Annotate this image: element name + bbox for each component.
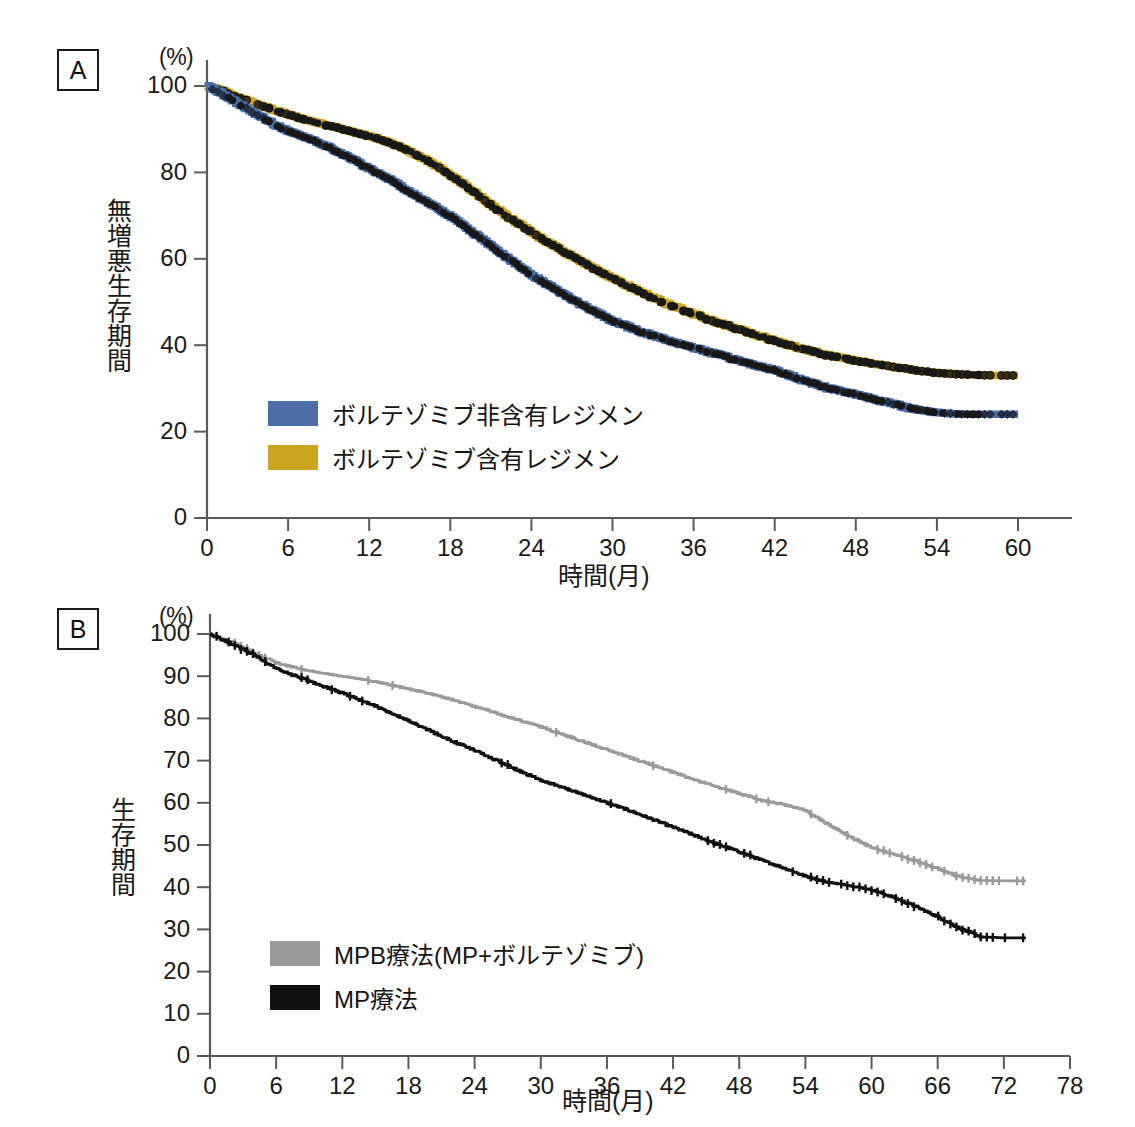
panel-a-x-tick: 12	[356, 534, 383, 561]
panel-b-y-tick: 0	[177, 1041, 190, 1068]
panel-a-plot: 02040608010006121824303642485460	[0, 0, 1135, 600]
legend-label-mp-therapy: MP療法	[334, 980, 418, 1015]
panel-b-x-tick: 6	[269, 1072, 282, 1099]
panel-b-x-tick: 60	[858, 1072, 885, 1099]
panel-a-y-tick: 0	[174, 503, 187, 530]
panel-a-y-tick: 80	[160, 158, 187, 185]
panel-b-x-tick: 66	[924, 1072, 951, 1099]
panel-a-y-tick: 100	[147, 71, 187, 98]
panel-b-y-tick: 30	[163, 915, 190, 942]
panel-a-x-tick: 24	[518, 534, 545, 561]
legend-label-bortezomib-free: ボルテゾミブ非含有レジメン	[332, 396, 644, 431]
panel-b-y-tick: 90	[163, 662, 190, 689]
panel-a-x-tick: 18	[437, 534, 464, 561]
panel-b-x-tick: 48	[726, 1072, 753, 1099]
panel-b-y-tick: 50	[163, 830, 190, 857]
panel-b-y-tick: 100	[150, 619, 190, 646]
panel-b-plot: 0102030405060708090100061218243036424854…	[0, 595, 1135, 1127]
panel-b-y-tick: 10	[163, 999, 190, 1026]
panel-b-x-tick: 24	[461, 1072, 488, 1099]
panel-a-y-tick: 20	[160, 417, 187, 444]
panel-a-x-tick: 36	[680, 534, 707, 561]
panel-a-x-tick: 0	[200, 534, 213, 561]
panel-a-legend: ボルテゾミブ非含有レジメン ボルテゾミブ含有レジメン	[268, 396, 644, 475]
panel-a-x-tick: 6	[281, 534, 294, 561]
panel-b-y-tick: 20	[163, 957, 190, 984]
panel-b-legend: MPB療法(MP+ボルテゾミブ) MP療法	[270, 936, 644, 1015]
panel-b-y-tick: 60	[163, 788, 190, 815]
panel-b-x-tick: 36	[594, 1072, 621, 1099]
panel-b-y-tick: 80	[163, 704, 190, 731]
panel-b-x-tick: 42	[660, 1072, 687, 1099]
legend-swatch-black	[270, 985, 320, 1010]
panel-a: A (%) 無増悪生存期間 時間(月) 02040608010006121824…	[0, 0, 1135, 600]
panel-b-x-tick: 0	[203, 1072, 216, 1099]
panel-b-x-tick: 12	[329, 1072, 356, 1099]
panel-b-y-tick: 40	[163, 873, 190, 900]
legend-label-bortezomib-containing: ボルテゾミブ含有レジメン	[332, 440, 620, 475]
panel-a-y-tick: 40	[160, 331, 187, 358]
panel-b-x-tick: 78	[1057, 1072, 1084, 1099]
panel-b-y-tick: 70	[163, 746, 190, 773]
legend-label-mpb-therapy: MPB療法(MP+ボルテゾミブ)	[334, 936, 644, 971]
panel-b-x-tick: 54	[792, 1072, 819, 1099]
curve-mp-therapy	[210, 632, 1026, 942]
panel-b: B (%) 生存期間 時間(月) 01020304050607080901000…	[0, 595, 1135, 1127]
legend-item-mp-therapy: MP療法	[270, 980, 644, 1015]
panel-a-x-tick: 54	[924, 534, 951, 561]
legend-swatch-gold	[268, 445, 318, 470]
panel-a-x-tick: 42	[761, 534, 788, 561]
panel-a-y-tick: 60	[160, 244, 187, 271]
panel-b-x-tick: 30	[527, 1072, 554, 1099]
panel-a-x-tick: 48	[842, 534, 869, 561]
legend-swatch-blue	[268, 401, 318, 426]
legend-item-mpb-therapy: MPB療法(MP+ボルテゾミブ)	[270, 936, 644, 971]
legend-item-bortezomib-containing: ボルテゾミブ含有レジメン	[268, 440, 644, 475]
panel-a-x-tick: 30	[599, 534, 626, 561]
panel-a-x-tick: 60	[1005, 534, 1032, 561]
panel-b-x-tick: 18	[395, 1072, 422, 1099]
curve-bortezomib-containing	[207, 84, 1018, 380]
legend-item-bortezomib-free: ボルテゾミブ非含有レジメン	[268, 396, 644, 431]
panel-b-x-tick: 72	[990, 1072, 1017, 1099]
curve-mpb-therapy	[210, 634, 1026, 886]
legend-swatch-gray	[270, 941, 320, 966]
